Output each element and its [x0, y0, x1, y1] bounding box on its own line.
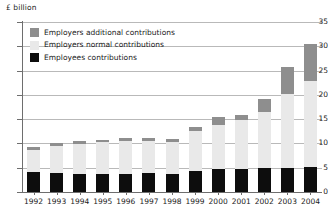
bar-segment-normal-1992: [27, 150, 40, 172]
bar-segment-normal-1993: [50, 146, 63, 173]
bar-segment-normal-2004: [304, 81, 317, 167]
bar-segment-normal-1997: [142, 141, 155, 174]
bar-segment-additional-2003: [281, 67, 294, 95]
bar-segment-normal-1996: [119, 141, 132, 175]
bar-segment-normal-1998: [166, 142, 179, 174]
bar-segment-employees-1997: [142, 173, 155, 192]
x-tick-mark-1999: [195, 192, 196, 195]
bar-segment-additional-2002: [258, 99, 271, 112]
bar-segment-normal-2000: [212, 125, 225, 169]
x-tick-mark-2000: [218, 192, 219, 195]
bar-segment-additional-1999: [189, 127, 202, 131]
x-tick-mark-1996: [126, 192, 127, 195]
stacked-bar-chart: £ billion 05101520253035 199219931994199…: [0, 0, 328, 218]
x-tick-mark-1997: [149, 192, 150, 195]
x-tick-mark-2002: [264, 192, 265, 195]
bar-segment-additional-1993: [50, 143, 63, 146]
bar-segment-employees-1998: [166, 174, 179, 192]
bar-segment-normal-1994: [73, 144, 86, 174]
legend-label-additional: Employers additional contributions: [44, 29, 175, 37]
legend-label-normal: Employers normal contributions: [44, 41, 164, 49]
bar-2002[interactable]: [258, 22, 271, 192]
bar-2003[interactable]: [281, 22, 294, 192]
legend-swatch-normal-icon: [30, 41, 39, 50]
bar-segment-employees-2003: [281, 168, 294, 192]
bar-segment-employees-2004: [304, 167, 317, 192]
legend-item-employees[interactable]: Employees contributions: [30, 52, 175, 63]
bar-segment-employees-2001: [235, 169, 248, 192]
y-axis-line: [22, 21, 23, 193]
x-tick-mark-2003: [287, 192, 288, 195]
x-tick-mark-1998: [172, 192, 173, 195]
bar-segment-normal-2001: [235, 120, 248, 169]
bar-segment-additional-1992: [27, 147, 40, 149]
legend-label-employees: Employees contributions: [44, 54, 137, 62]
legend-swatch-additional-icon: [30, 28, 39, 37]
bar-segment-employees-2000: [212, 169, 225, 192]
x-tick-mark-1993: [57, 192, 58, 195]
bar-segment-employees-1999: [189, 171, 202, 192]
bar-segment-normal-1995: [96, 142, 109, 174]
x-tick-mark-2001: [241, 192, 242, 195]
x-tick-label-2004: 2004: [295, 198, 325, 206]
bar-2004[interactable]: [304, 22, 317, 192]
bar-1999[interactable]: [189, 22, 202, 192]
x-tick-mark-1995: [103, 192, 104, 195]
bar-segment-additional-2001: [235, 115, 248, 120]
bar-segment-additional-1994: [73, 141, 86, 144]
bar-2000[interactable]: [212, 22, 225, 192]
bar-segment-additional-1997: [142, 138, 155, 141]
bar-segment-normal-2002: [258, 112, 271, 168]
bar-segment-normal-2003: [281, 94, 294, 167]
legend-swatch-employees-icon: [30, 53, 39, 62]
x-tick-mark-1992: [34, 192, 35, 195]
bar-segment-employees-1994: [73, 174, 86, 192]
legend-item-additional[interactable]: Employers additional contributions: [30, 27, 175, 38]
bar-segment-employees-1992: [27, 172, 40, 192]
bar-segment-employees-1996: [119, 174, 132, 192]
bar-segment-employees-1995: [96, 174, 109, 192]
bar-2001[interactable]: [235, 22, 248, 192]
bar-segment-employees-2002: [258, 168, 271, 192]
chart-legend: Employers additional contributionsEmploy…: [30, 27, 175, 65]
bar-segment-additional-2000: [212, 117, 225, 124]
bar-segment-employees-1993: [50, 173, 63, 192]
y-axis-unit-label: £ billion: [6, 3, 37, 12]
x-tick-mark-1994: [80, 192, 81, 195]
bar-segment-additional-1998: [166, 139, 179, 142]
bar-segment-additional-1996: [119, 138, 132, 140]
legend-item-normal[interactable]: Employers normal contributions: [30, 40, 175, 51]
bar-segment-normal-1999: [189, 131, 202, 170]
bar-segment-additional-2004: [304, 44, 317, 81]
bar-segment-additional-1995: [96, 140, 109, 143]
x-tick-mark-2004: [310, 192, 311, 195]
